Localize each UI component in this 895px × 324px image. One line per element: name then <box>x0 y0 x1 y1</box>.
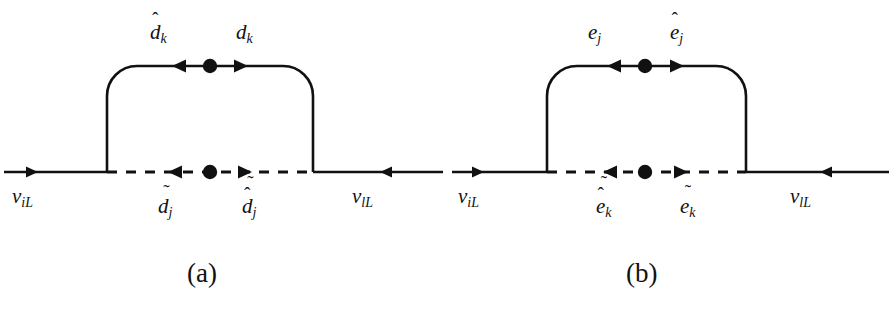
caption-a: (a) <box>187 258 217 289</box>
arrowhead-loop-top-right <box>670 60 684 73</box>
arrowhead-external-right <box>820 167 832 178</box>
loop-solid-fermion-line <box>547 66 746 172</box>
label-loop-bottom-right-b: ̃ e k <box>680 196 696 217</box>
label-loop-top-left-a: ̂ d k <box>150 22 167 43</box>
label-loop-top-left-b: e j <box>588 22 601 43</box>
caption-b: (b) <box>626 258 657 289</box>
mass-insertion-dot-bottom <box>638 165 652 179</box>
arrowhead-loop-bottom-right <box>238 166 252 179</box>
label-loop-bottom-left-a: ̃ d j <box>158 196 172 217</box>
label-external-right-a: νlL <box>352 186 373 207</box>
arrowhead-loop-bottom-left <box>603 166 617 179</box>
arrowhead-loop-top-right <box>234 60 248 73</box>
mass-insertion-dot-top <box>638 59 652 73</box>
diagram-a-canvas <box>0 0 447 324</box>
label-loop-top-right-b: ̂ e j <box>670 22 683 43</box>
diagram-b-canvas <box>448 0 895 324</box>
label-external-left-b: νiL <box>458 186 479 207</box>
feynman-diagram-b: e j ̂ e j ̃ ̂ e k ̃ e k νiL νlL <box>448 0 895 324</box>
arrowhead-loop-top-left <box>172 60 186 73</box>
arrowhead-loop-bottom-left <box>168 166 182 179</box>
feynman-diagram-a: ̂ d k d k ̃ d j ̃ ̂ d j νiL νlL <box>0 0 447 324</box>
label-external-left-a: νiL <box>12 186 33 207</box>
mass-insertion-dot-top <box>203 59 217 73</box>
arrowhead-external-right <box>380 167 392 178</box>
label-loop-bottom-right-a: ̃ ̂ d j <box>242 196 256 217</box>
label-external-right-b: νlL <box>790 186 811 207</box>
figure-root: — — —— — ————— — — —— <box>0 0 895 324</box>
arrowhead-loop-top-left <box>607 60 621 73</box>
mass-insertion-dot-bottom <box>203 165 217 179</box>
label-loop-top-right-a: d k <box>236 22 253 43</box>
label-loop-bottom-left-b: ̃ ̂ e k <box>596 196 612 217</box>
loop-solid-fermion-line <box>107 66 313 172</box>
arrowhead-loop-bottom-right <box>674 166 688 179</box>
arrowhead-external-left <box>26 167 38 178</box>
arrowhead-external-left <box>472 167 484 178</box>
